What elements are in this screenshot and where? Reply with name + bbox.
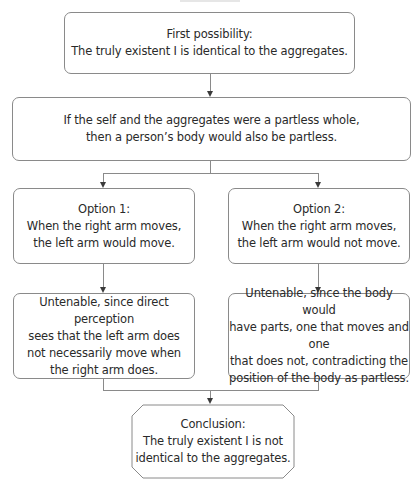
conclusion-box: Conclusion: The truly existent I is not … bbox=[132, 405, 294, 478]
conclusion-text: Conclusion: The truly existent I is not … bbox=[135, 416, 290, 467]
